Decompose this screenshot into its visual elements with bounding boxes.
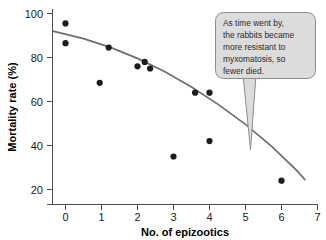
- data-point: [62, 20, 68, 26]
- data-point: [192, 90, 198, 96]
- data-point: [170, 153, 176, 159]
- y-tick-label-40: 40: [31, 140, 43, 152]
- y-tick-label-60: 60: [31, 96, 43, 108]
- x-tick-label-3: 3: [170, 211, 176, 223]
- y-tick-label-80: 80: [31, 52, 43, 64]
- y-tick-label-20: 20: [31, 184, 43, 196]
- callout-line-1: As time went by,: [223, 18, 284, 28]
- y-axis-title: Mortality rate (%): [6, 62, 18, 152]
- y-axis-ticks: [47, 14, 53, 190]
- data-point: [97, 80, 103, 86]
- callout-line-3: more resistant to: [223, 42, 286, 52]
- x-tick-label-0: 0: [62, 211, 68, 223]
- y-tick-label-100: 100: [25, 8, 43, 20]
- callout-line-4: myxomatosis, so: [223, 54, 286, 64]
- callout-annotation: As time went by, the rabbits became more…: [216, 13, 316, 151]
- x-tick-label-2: 2: [134, 211, 140, 223]
- x-tick-label-6: 6: [278, 211, 284, 223]
- x-tick-label-4: 4: [206, 211, 212, 223]
- data-point: [147, 65, 153, 71]
- chart-figure: 100 80 60 40 20 0 1 2 3 4 5 6 7 No. of e…: [0, 0, 326, 240]
- data-point: [206, 138, 212, 144]
- callout-tail: [243, 75, 256, 150]
- x-axis-ticks: [66, 205, 318, 211]
- data-point: [142, 59, 148, 65]
- data-point: [206, 90, 212, 96]
- scatter-plot: 100 80 60 40 20 0 1 2 3 4 5 6 7 No. of e…: [0, 0, 326, 240]
- x-axis-title: No. of epizootics: [141, 226, 229, 238]
- x-tick-label-5: 5: [242, 211, 248, 223]
- x-tick-label-7: 7: [314, 211, 320, 223]
- x-tick-label-1: 1: [98, 211, 104, 223]
- data-point: [106, 45, 112, 51]
- data-point: [134, 63, 140, 69]
- callout-line-2: the rabbits became: [223, 30, 295, 40]
- callout-line-5: fewer died.: [223, 66, 264, 76]
- data-point: [278, 178, 284, 184]
- data-point: [62, 40, 68, 46]
